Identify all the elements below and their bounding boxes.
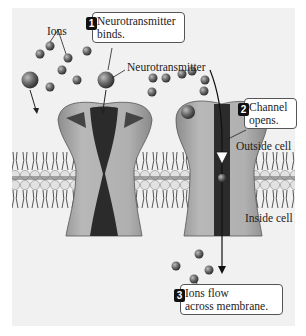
- step-2-callout: 2 Channel opens.: [244, 98, 297, 129]
- step-3-badge: 3: [174, 289, 185, 302]
- step-1-line1: Neurotransmitter: [97, 15, 179, 28]
- step-3-line1: Ions flow: [185, 287, 277, 300]
- step-1-badge: 1: [86, 17, 97, 30]
- ions-intracellular: [172, 250, 214, 284]
- step-3-line2: across membrane.: [185, 300, 277, 313]
- inside-cell-label: Inside cell: [245, 212, 293, 225]
- outside-cell-label: Outside cell: [236, 140, 291, 153]
- step-2-line2: opens.: [249, 114, 291, 127]
- step-1-line2: binds.: [97, 28, 179, 41]
- step-3-callout: 3 Ions flow across membrane.: [180, 284, 283, 315]
- step-2-badge: 2: [238, 103, 249, 116]
- step-1-callout: 1 Neurotransmitter binds.: [92, 12, 185, 43]
- ions-label: Ions: [47, 25, 67, 38]
- step-2-line1: Channel: [249, 101, 291, 114]
- neurotransmitter-label: Neurotransmitter: [127, 61, 206, 74]
